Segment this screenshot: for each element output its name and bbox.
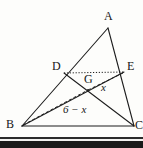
vertex-label-A: A bbox=[104, 10, 113, 22]
measure-label-six-minus-x: 6 − x bbox=[63, 104, 86, 115]
geometry-canvas bbox=[0, 0, 143, 148]
segment-DE bbox=[64, 72, 124, 73]
vertex-label-D: D bbox=[52, 60, 61, 72]
vertex-label-C: C bbox=[135, 119, 143, 131]
vertex-label-E: E bbox=[127, 60, 134, 72]
vertex-label-G: G bbox=[84, 73, 93, 85]
side-AC bbox=[108, 28, 134, 126]
geometry-figure: A B C D E G x 6 − x bbox=[0, 0, 143, 148]
measure-label-x: x bbox=[101, 82, 106, 93]
cevian-DC bbox=[64, 73, 134, 126]
vertex-label-B: B bbox=[6, 118, 14, 130]
bottom-thick-rule bbox=[0, 141, 143, 148]
point-G-marker bbox=[87, 89, 89, 91]
